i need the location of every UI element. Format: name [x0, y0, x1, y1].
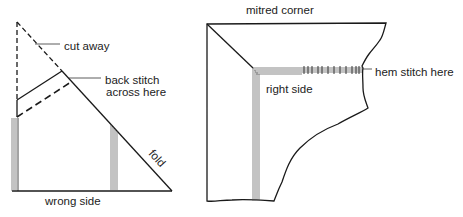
mitred-corner-title: mitred corner: [246, 4, 314, 16]
back-stitch-edge: [17, 71, 62, 100]
back-stitch-label-line1: back stitch: [105, 74, 159, 86]
hem-stitch-label: hem stitch here: [375, 66, 454, 78]
mitre-diagonal: [207, 24, 253, 68]
right-side-label: right side: [266, 83, 313, 95]
left-figure-wrong-side: cut away back stitch across here fold wr…: [12, 22, 172, 207]
cut-away-label: cut away: [64, 40, 110, 52]
back-stitch-label-line2: across here: [106, 86, 166, 98]
left-hem-lines: [12, 118, 18, 191]
wrong-side-label: wrong side: [44, 195, 101, 207]
diagram-canvas: cut away back stitch across here fold wr…: [0, 0, 463, 217]
middle-hem-lines: [111, 125, 117, 191]
back-stitch-dashed-line: [17, 82, 71, 117]
cut-away-dashed-diagonal: [17, 22, 62, 71]
left-hem-lines-right-figure: [253, 68, 259, 201]
right-figure-mitred-corner: mitred corner: [207, 4, 454, 201]
